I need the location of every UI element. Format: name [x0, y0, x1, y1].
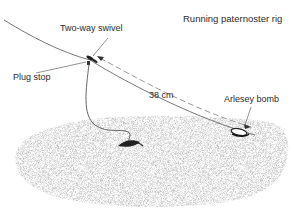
- arrowhead-left: [97, 56, 104, 61]
- distance-arrow: [100, 58, 248, 126]
- label-arlesey-bomb: Arlesey bomb: [224, 95, 279, 104]
- label-plug-stop: Plug stop: [13, 73, 51, 82]
- seabed-area: [15, 116, 288, 207]
- label-distance: 38 cm: [149, 91, 174, 100]
- plug-stop-icon: [87, 61, 90, 65]
- rig-illustration: [0, 0, 294, 213]
- swivel-leader: [93, 38, 108, 56]
- diagram-title: Running paternoster rig: [183, 14, 282, 24]
- label-two-way-swivel: Two-way swivel: [60, 24, 123, 33]
